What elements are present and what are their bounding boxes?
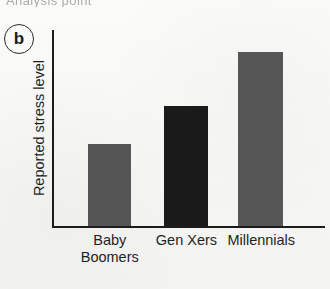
x-axis-line (52, 226, 325, 228)
bar (164, 106, 208, 226)
bar (238, 52, 283, 226)
x-axis-tick-labels: Baby BoomersGen XersMillennials (54, 232, 326, 282)
x-tick-label: Millennials (216, 232, 306, 249)
plot-area (54, 30, 325, 226)
clipped-caption-fragment: Analysis point (6, 0, 126, 7)
bar (88, 144, 131, 226)
y-axis-title: Reported stress level (30, 28, 48, 228)
figure-panel-b: Analysis point b Reported stress level B… (0, 0, 330, 289)
